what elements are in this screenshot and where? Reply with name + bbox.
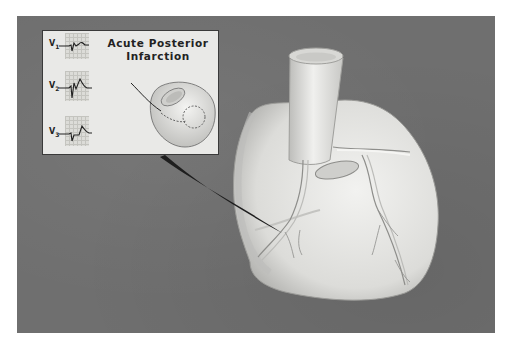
heart [234,48,439,300]
ecg-trace-v2 [59,79,92,98]
ecg-traces [43,31,220,156]
ecg-trace-v3 [59,126,92,141]
mini-heart-diagram [131,82,215,147]
ecg-trace-v1 [59,42,89,51]
ecg-inset: Acute Posterior Infarction V1 V2 V3 [42,30,219,155]
